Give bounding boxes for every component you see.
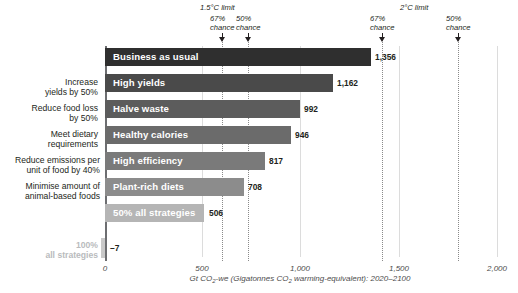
tick-label-0: 0 <box>103 264 107 273</box>
chart-container: 1.5°C limit 2°C limit 67%chance 50%chanc… <box>0 0 518 293</box>
gridline-2000 <box>497 46 498 257</box>
limit-15c-title: 1.5°C limit <box>200 3 235 12</box>
tick-label-1500: 1,500 <box>389 264 409 273</box>
cat-desc-healthy-calories: Meet dietary requirements <box>3 129 98 149</box>
arrow-2c-50 <box>455 37 461 42</box>
chance-label-2c-67: 67%chance <box>370 14 395 32</box>
bar-100pct-all-strategies <box>101 238 105 258</box>
plot-area: 1.5°C limit 2°C limit 67%chance 50%chanc… <box>0 0 518 293</box>
bar-value-plant-rich-diets: 708 <box>248 178 262 196</box>
chance-label-2c-50: 50%chance <box>446 14 471 32</box>
markerline-2c-67 <box>382 40 383 261</box>
cat-desc-high-yields: Increase yields by 50% <box>8 77 98 97</box>
bar-label-halve-waste: Halve waste <box>113 100 169 118</box>
gridline-1500 <box>399 46 400 257</box>
chance-label-15c-50: 50%chance <box>236 14 261 32</box>
cat-desc-100pct-all-strategies: 100% all strategies <box>3 240 98 260</box>
x-axis-title-text: Gt CO2-we (Gigatonnes CO2 warming-equiva… <box>189 274 410 283</box>
bar-label-50pct-all-strategies: 50% all strategies <box>113 204 195 222</box>
bar-value-healthy-calories: 946 <box>295 126 309 144</box>
tick-label-500: 500 <box>195 264 208 273</box>
bar-label-high-efficiency: High efficiency <box>113 152 183 170</box>
markerline-2c-50 <box>458 40 459 261</box>
cat-desc-halve-waste: Reduce food loss by 50% <box>3 103 98 123</box>
arrow-15c-50 <box>245 37 251 42</box>
x-axis-title: Gt CO2-we (Gigatonnes CO2 warming-equiva… <box>189 274 410 283</box>
bar-label-business-as-usual: Business as usual <box>113 48 198 66</box>
tick-label-1000: 1,000 <box>290 264 310 273</box>
arrow-2c-67 <box>379 37 385 42</box>
bar-value-business-as-usual: 1,356 <box>375 48 396 66</box>
bar-value-halve-waste: 992 <box>304 100 318 118</box>
bar-label-healthy-calories: Healthy calories <box>113 126 188 144</box>
cat-desc-high-efficiency: Reduce emissions per unit of food by 40% <box>0 155 100 175</box>
tick-label-2000: 2,000 <box>487 264 507 273</box>
chance-label-15c-67: 67%chance <box>210 14 235 32</box>
limit-2c-title: 2°C limit <box>400 3 428 12</box>
bar-label-plant-rich-diets: Plant-rich diets <box>113 178 184 196</box>
bar-label-high-yields: High yields <box>113 74 165 92</box>
cat-desc-plant-rich-diets: Minimise amount of animal-based foods <box>0 181 100 201</box>
bar-value-high-yields: 1,162 <box>337 74 358 92</box>
bar-value-high-efficiency: 817 <box>269 152 283 170</box>
bar-value-50pct-all-strategies: 506 <box>209 204 223 222</box>
bar-value-100pct-all-strategies: –7 <box>110 238 119 258</box>
arrow-15c-67 <box>219 37 225 42</box>
